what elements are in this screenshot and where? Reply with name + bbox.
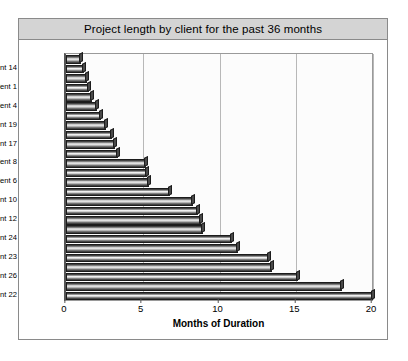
bar-row: [66, 235, 232, 244]
y-axis-label: Client 4: [0, 101, 17, 110]
bar-row: [66, 273, 298, 282]
bar-row: [66, 188, 170, 197]
bar-row: [66, 178, 149, 187]
bar-cap: [147, 175, 151, 186]
bar-row: [66, 93, 92, 102]
y-axis-label: Client 10: [0, 195, 17, 204]
y-axis-label: Client 14: [0, 63, 17, 72]
y-axis-label: Client 23: [0, 252, 17, 261]
y-axis-label: Client 26: [0, 271, 17, 280]
bar-cap: [113, 137, 117, 148]
bar: [66, 84, 89, 93]
y-axis-label: Client 22: [0, 290, 17, 299]
chart-title: Project length by client for the past 36…: [84, 23, 322, 35]
bar: [66, 216, 201, 225]
bar-row: [66, 225, 203, 234]
bar: [66, 292, 373, 301]
bar: [66, 102, 97, 111]
bar: [66, 244, 238, 253]
tick-label: 15: [289, 303, 300, 314]
bar-cap: [82, 62, 86, 73]
bar-row: [66, 292, 373, 301]
bar-cap: [144, 156, 148, 167]
bar-row: [66, 140, 115, 149]
y-axis-label: Client 12: [0, 214, 17, 223]
y-axis-label: Client 1: [0, 82, 17, 91]
bar: [66, 112, 101, 121]
bar: [66, 93, 92, 102]
bar-cap: [104, 118, 108, 129]
chart-frame: Project length by client for the past 36…: [18, 18, 388, 340]
bar-cap: [201, 222, 205, 233]
tick-label: 10: [212, 303, 223, 314]
y-axis-label: Client 19: [0, 120, 17, 129]
bar-row: [66, 84, 89, 93]
bar-row: [66, 65, 84, 74]
bar: [66, 263, 272, 272]
bar-row: [66, 169, 147, 178]
bar-cap: [168, 185, 172, 196]
bar: [66, 121, 106, 130]
bar-cap: [87, 81, 91, 92]
bar: [66, 131, 112, 140]
bar-cap: [340, 279, 344, 290]
tick-mark: [294, 299, 295, 303]
tick-label: 20: [366, 303, 377, 314]
bar-row: [66, 112, 101, 121]
x-axis-ticks: 05101520: [64, 303, 373, 317]
bar-cap: [196, 204, 200, 215]
bar-row: [66, 197, 193, 206]
bar-row: [66, 207, 198, 216]
x-axis-title: Months of Duration: [64, 318, 373, 329]
x-axis-tick-15: 15: [289, 303, 300, 314]
bar-cap: [230, 232, 234, 243]
bar-row: [66, 131, 112, 140]
bar-series: [66, 54, 372, 300]
tick-mark: [371, 299, 372, 303]
bar: [66, 150, 118, 159]
bar-cap: [267, 251, 271, 262]
bar-row: [66, 159, 146, 168]
tick-mark: [217, 299, 218, 303]
bar-cap: [99, 109, 103, 120]
tick-label: 0: [61, 303, 66, 314]
bar-row: [66, 216, 201, 225]
bar-cap: [191, 194, 195, 205]
bar: [66, 235, 232, 244]
bar: [66, 197, 193, 206]
x-axis-tick-0: 0: [61, 303, 66, 314]
y-axis-labels: Client 14Client 1Client 4Client 19Client…: [0, 53, 17, 301]
bar-row: [66, 74, 87, 83]
tick-label: 5: [138, 303, 143, 314]
bar-row: [66, 102, 97, 111]
bar: [66, 169, 147, 178]
bar-row: [66, 150, 118, 159]
y-axis-label: Client 17: [0, 139, 17, 148]
bar-cap: [110, 128, 114, 139]
y-axis-label: Client 8: [0, 157, 17, 166]
bar: [66, 188, 170, 197]
bar-cap: [236, 241, 240, 252]
y-axis-label: Client 24: [0, 233, 17, 242]
bar-row: [66, 121, 106, 130]
x-axis-tick-20: 20: [366, 303, 377, 314]
bar: [66, 273, 298, 282]
bar: [66, 178, 149, 187]
bar-cap: [270, 260, 274, 271]
bar: [66, 225, 203, 234]
x-axis-tick-5: 5: [138, 303, 143, 314]
tick-mark: [141, 299, 142, 303]
gridline-20: [373, 54, 374, 300]
bar-row: [66, 55, 81, 64]
bar-cap: [116, 147, 120, 158]
bar-cap: [85, 71, 89, 82]
plot-outer: Client 14Client 1Client 4Client 19Client…: [19, 41, 387, 339]
bar-cap: [79, 52, 83, 63]
tick-mark: [64, 299, 65, 303]
bar-row: [66, 244, 238, 253]
bar: [66, 207, 198, 216]
bar-row: [66, 263, 272, 272]
chart-title-bar: Project length by client for the past 36…: [19, 19, 387, 40]
plot-area: [64, 53, 373, 301]
bar-cap: [296, 270, 300, 281]
